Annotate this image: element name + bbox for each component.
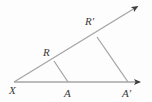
point-label-x: X [9,85,16,96]
point-label-a: A [64,88,71,99]
point-label-r-prime: R' [85,16,94,27]
ray-upper [14,7,138,83]
segment-RA [54,61,68,82]
segment-RprimeAprime [97,37,128,82]
point-label-r: R [43,47,50,58]
geometry-figure: X A A' R R' [0,0,152,102]
point-label-a-prime: A' [122,88,131,99]
